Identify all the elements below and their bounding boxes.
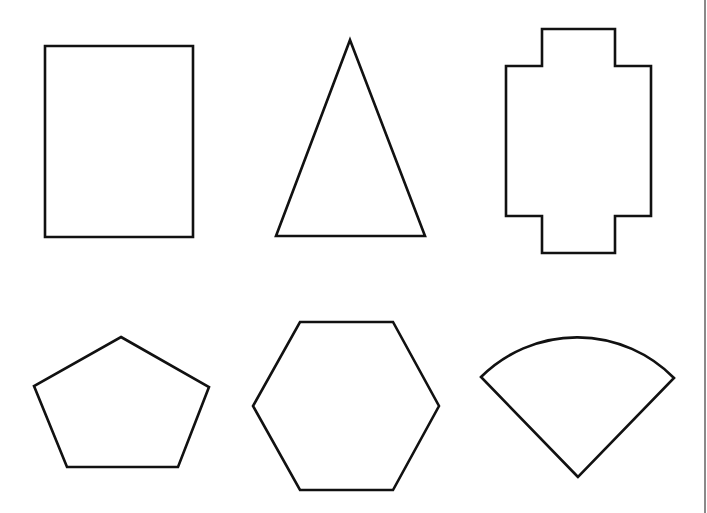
rectangle-shape [45,46,193,237]
shapes-canvas [0,0,707,513]
